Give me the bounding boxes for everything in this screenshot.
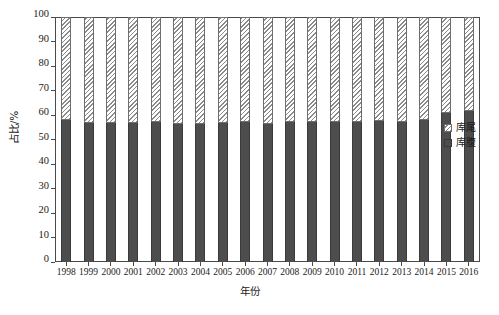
bar-group[interactable] [106, 17, 116, 262]
bar-segment-kufu[interactable] [84, 123, 94, 262]
x-tick-mark [401, 262, 402, 266]
chart-figure: 0102030405060708090100 占比/% 199819992000… [0, 0, 499, 315]
bar-segment-kufu[interactable] [106, 123, 116, 262]
x-tick-mark [245, 262, 246, 266]
legend-swatch-hatched-icon [444, 124, 452, 132]
bar-group[interactable] [307, 17, 317, 262]
bar-segment-kufu[interactable] [195, 124, 205, 262]
bar-group[interactable] [128, 17, 138, 262]
y-tick-label: 40 [39, 156, 50, 167]
bar-series-container [55, 17, 480, 262]
x-tick-mark [424, 262, 425, 266]
x-tick-mark [468, 262, 469, 266]
bar-segment-kuwei[interactable] [307, 17, 317, 122]
bar-group[interactable] [240, 17, 250, 262]
bar-group[interactable] [374, 17, 384, 262]
y-tick-label: 60 [39, 107, 50, 118]
x-tick-mark [379, 262, 380, 266]
y-tick-label: 70 [39, 83, 50, 94]
bar-group[interactable] [352, 17, 362, 262]
y-tick-label: 10 [39, 230, 50, 241]
x-tick-mark [334, 262, 335, 266]
bar-segment-kuwei[interactable] [419, 17, 429, 120]
bar-segment-kuwei[interactable] [106, 17, 116, 123]
bar-group[interactable] [218, 17, 228, 262]
bar-segment-kuwei[interactable] [352, 17, 362, 122]
figure-caption [0, 303, 499, 315]
bar-segment-kuwei[interactable] [240, 17, 250, 122]
bar-segment-kuwei[interactable] [374, 17, 384, 121]
bar-segment-kufu[interactable] [285, 122, 295, 262]
bar-group[interactable] [151, 17, 161, 262]
bar-segment-kufu[interactable] [352, 122, 362, 262]
bar-segment-kuwei[interactable] [128, 17, 138, 123]
x-tick-mark [110, 262, 111, 266]
bar-group[interactable] [285, 17, 295, 262]
bar-segment-kufu[interactable] [61, 120, 71, 262]
x-tick-mark [178, 262, 179, 266]
bar-segment-kuwei[interactable] [61, 17, 71, 120]
bar-segment-kufu[interactable] [419, 120, 429, 262]
bar-segment-kuwei[interactable] [218, 17, 228, 123]
bar-segment-kufu[interactable] [240, 122, 250, 262]
x-tick-mark [356, 262, 357, 266]
bar-segment-kuwei[interactable] [195, 17, 205, 124]
bar-segment-kufu[interactable] [263, 124, 273, 262]
x-tick-mark [155, 262, 156, 266]
bar-segment-kufu[interactable] [307, 122, 317, 262]
bar-segment-kuwei[interactable] [263, 17, 273, 124]
bar-segment-kuwei[interactable] [151, 17, 161, 122]
bar-segment-kuwei[interactable] [173, 17, 183, 124]
legend-swatch-solid-icon [444, 139, 452, 147]
bar-segment-kuwei[interactable] [285, 17, 295, 122]
x-tick-mark [267, 262, 268, 266]
y-axis-title: 占比/% [6, 98, 21, 158]
x-tick-mark [88, 262, 89, 266]
chart-legend: 库尾库腹 [444, 120, 499, 150]
bar-group[interactable] [419, 17, 429, 262]
x-tick-mark [222, 262, 223, 266]
bar-segment-kufu[interactable] [128, 123, 138, 262]
x-tick-label: 2016 [456, 267, 482, 278]
bar-segment-kuwei[interactable] [397, 17, 407, 122]
bar-segment-kuwei[interactable] [84, 17, 94, 123]
bar-segment-kuwei[interactable] [441, 17, 451, 113]
bar-segment-kufu[interactable] [330, 122, 340, 262]
x-tick-mark [312, 262, 313, 266]
x-tick-mark [289, 262, 290, 266]
x-tick-mark [446, 262, 447, 266]
y-tick-label: 100 [33, 9, 49, 20]
legend-label: 库腹 [456, 138, 476, 148]
bar-group[interactable] [263, 17, 273, 262]
bar-segment-kufu[interactable] [374, 121, 384, 262]
bar-group[interactable] [195, 17, 205, 262]
y-tick-label: 30 [39, 181, 50, 192]
bar-segment-kufu[interactable] [397, 122, 407, 262]
bar-group[interactable] [330, 17, 340, 262]
x-tick-mark [133, 262, 134, 266]
bar-segment-kufu[interactable] [173, 124, 183, 262]
y-tick-label: 90 [39, 34, 50, 45]
bar-segment-kufu[interactable] [218, 123, 228, 262]
y-tick-label: 50 [39, 132, 50, 143]
x-tick-mark [200, 262, 201, 266]
bar-group[interactable] [397, 17, 407, 262]
legend-item[interactable]: 库尾 [444, 120, 499, 135]
bar-segment-kuwei[interactable] [330, 17, 340, 122]
bar-group[interactable] [173, 17, 183, 262]
bar-segment-kufu[interactable] [151, 122, 161, 262]
y-tick-label: 80 [39, 58, 50, 69]
bar-segment-kuwei[interactable] [464, 17, 474, 111]
bar-group[interactable] [61, 17, 71, 262]
legend-label: 库尾 [456, 123, 476, 133]
y-tick-label: 20 [39, 205, 50, 216]
bar-group[interactable] [84, 17, 94, 262]
x-axis-title: 年份 [0, 283, 499, 298]
legend-item[interactable]: 库腹 [444, 135, 499, 150]
x-tick-mark [66, 262, 67, 266]
